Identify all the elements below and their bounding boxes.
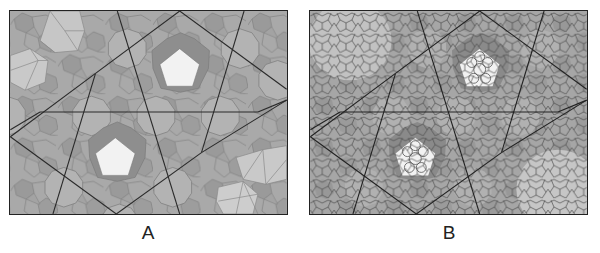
tiling-b-graphic bbox=[310, 11, 587, 214]
tiling-a-graphic bbox=[10, 11, 287, 214]
panel-b-label: B bbox=[429, 222, 469, 244]
panel-a-tiling bbox=[9, 10, 288, 215]
panel-b-girih bbox=[309, 10, 588, 215]
panel-a-label: A bbox=[128, 222, 168, 244]
